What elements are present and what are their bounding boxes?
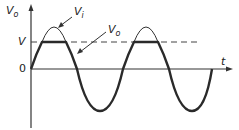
- x-axis-arrow-icon: [226, 67, 233, 72]
- clipper-diagram: [0, 0, 239, 130]
- clip-level-label: V: [18, 36, 26, 47]
- x-axis-label: t: [221, 56, 225, 67]
- output-pointer-arrow-icon: [77, 48, 83, 54]
- input-waveform-peak-1: [42, 27, 66, 42]
- input-waveform-peak-2: [134, 27, 158, 42]
- input-label: Vi: [74, 6, 84, 20]
- y-axis-arrow-icon: [29, 4, 34, 11]
- output-label: Vo: [108, 24, 120, 38]
- y-axis-label: Vo: [6, 5, 18, 19]
- origin-label: 0: [19, 63, 26, 74]
- input-pointer-arrow-icon: [58, 22, 64, 28]
- output-waveform: [31, 42, 212, 111]
